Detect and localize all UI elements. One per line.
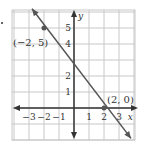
- y-axis-label: y: [77, 11, 84, 21]
- y-axis-arrow-down-icon: [71, 132, 77, 139]
- data-point: [42, 26, 47, 31]
- data-point: [102, 106, 107, 111]
- x-tick-label: −1: [52, 112, 65, 122]
- y-tick-label: 2: [65, 71, 71, 81]
- coordinate-plane: −3−2−11231245xy (−2, 5)(2, 0): [0, 0, 142, 149]
- data-point-label: (−2, 5): [13, 37, 48, 48]
- x-tick-label: −2: [37, 112, 50, 122]
- x-tick-label: −3: [22, 112, 36, 122]
- y-tick-label: 1: [65, 87, 71, 97]
- y-tick-label: 4: [65, 39, 71, 49]
- y-tick-label: 5: [65, 23, 71, 33]
- y-axis-arrow-up-icon: [71, 10, 77, 17]
- x-tick-label: 2: [101, 112, 107, 122]
- x-axis-label: x: [128, 112, 133, 122]
- x-tick-label: 1: [86, 112, 92, 122]
- data-point-label: (2, 0): [107, 94, 134, 105]
